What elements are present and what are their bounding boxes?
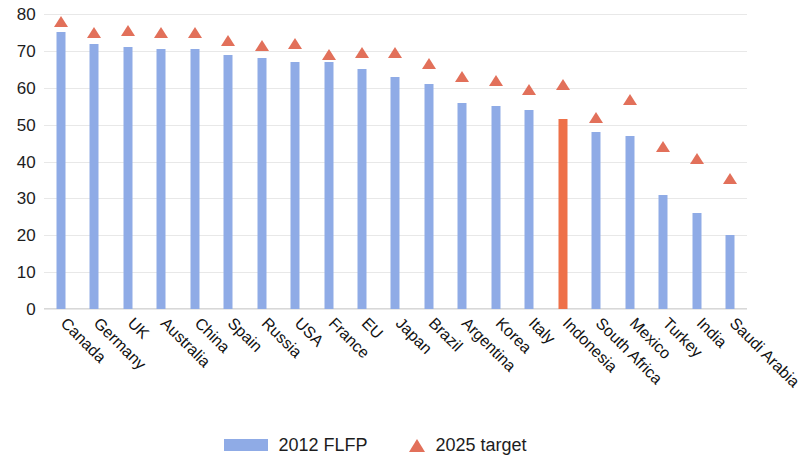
bar[interactable] (391, 77, 400, 309)
bar[interactable] (659, 195, 668, 309)
bar-group[interactable] (479, 14, 512, 309)
bar-group[interactable] (144, 14, 177, 309)
bar-group[interactable] (613, 14, 646, 309)
bar-group[interactable] (278, 14, 311, 309)
legend-label: 2012 FLFP (278, 436, 367, 454)
legend-item-2025-target[interactable]: 2025 target (409, 436, 526, 454)
target-marker[interactable] (388, 47, 402, 58)
target-marker[interactable] (154, 27, 168, 38)
target-marker[interactable] (54, 16, 68, 27)
bar[interactable] (558, 119, 567, 309)
bar-swatch-icon (224, 439, 268, 451)
bar-group[interactable] (647, 14, 680, 309)
y-axis-tick-label: 80 (17, 6, 36, 23)
bar-group[interactable] (44, 14, 77, 309)
target-marker[interactable] (455, 71, 469, 82)
target-marker[interactable] (723, 173, 737, 184)
target-marker[interactable] (589, 112, 603, 123)
target-marker[interactable] (255, 40, 269, 51)
bar[interactable] (257, 58, 266, 309)
target-marker[interactable] (489, 75, 503, 86)
x-axis-category-label: Spain (225, 315, 265, 355)
target-marker[interactable] (355, 47, 369, 58)
bar[interactable] (56, 32, 65, 309)
y-axis-tick-label: 50 (17, 116, 36, 133)
bar[interactable] (291, 62, 300, 309)
bar-group[interactable] (211, 14, 244, 309)
bar-group[interactable] (546, 14, 579, 309)
y-axis-tick-labels: 01020304050607080 (0, 14, 40, 309)
y-axis-tick-label: 60 (17, 79, 36, 96)
bar[interactable] (224, 55, 233, 309)
bar-group[interactable] (714, 14, 747, 309)
target-marker[interactable] (690, 153, 704, 164)
bar[interactable] (123, 47, 132, 309)
bar[interactable] (90, 44, 99, 310)
y-axis-tick-label: 70 (17, 42, 36, 59)
bar[interactable] (592, 132, 601, 309)
bar-group[interactable] (580, 14, 613, 309)
target-marker[interactable] (188, 27, 202, 38)
bar-group[interactable] (111, 14, 144, 309)
target-marker[interactable] (322, 49, 336, 60)
bar-group[interactable] (680, 14, 713, 309)
target-marker[interactable] (87, 27, 101, 38)
bar-group[interactable] (446, 14, 479, 309)
bars-layer (44, 14, 747, 309)
x-axis-category-label: Japan (392, 315, 434, 357)
target-marker[interactable] (623, 94, 637, 105)
bar-group[interactable] (178, 14, 211, 309)
bar-group[interactable] (245, 14, 278, 309)
bar-group[interactable] (312, 14, 345, 309)
triangle-marker-icon (409, 439, 425, 452)
y-axis-tick-label: 30 (17, 190, 36, 207)
bar[interactable] (424, 84, 433, 309)
bar[interactable] (726, 235, 735, 309)
bar[interactable] (190, 49, 199, 309)
target-marker[interactable] (288, 38, 302, 49)
target-marker[interactable] (522, 84, 536, 95)
chart-legend: 2012 FLFP 2025 target (0, 436, 751, 454)
bar-group[interactable] (412, 14, 445, 309)
bar[interactable] (692, 213, 701, 309)
x-axis-category-labels: CanadaGermanyUKAustraliaChinaSpainRussia… (44, 309, 747, 424)
y-axis-tick-label: 0 (26, 301, 36, 318)
y-axis-tick-label: 10 (17, 264, 36, 281)
plot-area (44, 14, 747, 309)
x-axis-category-label: EU (359, 315, 386, 342)
target-marker[interactable] (556, 79, 570, 90)
bar[interactable] (358, 69, 367, 309)
bar-group[interactable] (345, 14, 378, 309)
x-axis-category-label: Saudi Arabia (727, 315, 802, 390)
legend-label: 2025 target (435, 436, 526, 454)
y-axis-tick-label: 40 (17, 153, 36, 170)
x-axis-category-label: UK (124, 315, 151, 342)
y-axis-tick-label: 20 (17, 227, 36, 244)
target-marker[interactable] (656, 141, 670, 152)
bar[interactable] (157, 49, 166, 309)
bar[interactable] (525, 110, 534, 309)
bar[interactable] (491, 106, 500, 309)
target-marker[interactable] (422, 58, 436, 69)
bar-group[interactable] (77, 14, 110, 309)
target-marker[interactable] (121, 25, 135, 36)
bar[interactable] (625, 136, 634, 309)
bar[interactable] (324, 62, 333, 309)
bar-group[interactable] (379, 14, 412, 309)
bar[interactable] (458, 103, 467, 310)
bar-group[interactable] (513, 14, 546, 309)
legend-item-2012-flfp[interactable]: 2012 FLFP (224, 436, 367, 454)
target-marker[interactable] (221, 35, 235, 46)
